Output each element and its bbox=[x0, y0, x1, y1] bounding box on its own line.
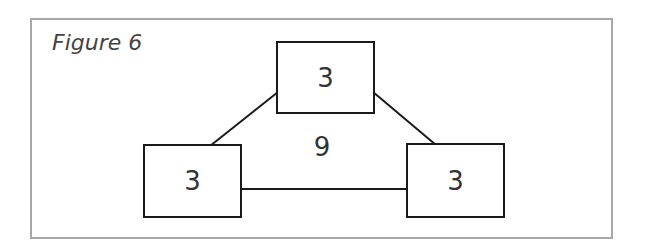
node-left: 3 bbox=[143, 144, 242, 218]
node-right: 3 bbox=[406, 143, 505, 218]
edges bbox=[0, 0, 647, 252]
node-right-label: 3 bbox=[447, 166, 464, 196]
node-left-label: 3 bbox=[184, 166, 201, 196]
edge-top-left bbox=[210, 92, 278, 146]
node-top-label: 3 bbox=[317, 63, 334, 93]
edge-top-right bbox=[373, 92, 436, 145]
center-total-label: 9 bbox=[314, 132, 331, 162]
node-top: 3 bbox=[276, 41, 375, 114]
